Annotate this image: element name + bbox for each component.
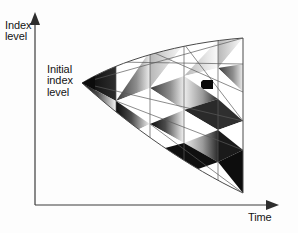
up-arrow-icon [30, 12, 40, 25]
initial-index-level-annotation: Initialindexlevel [47, 64, 73, 98]
lattice-cell [150, 143, 184, 174]
y-axis-label-line1: Index [5, 19, 31, 31]
figure-canvas [0, 0, 298, 233]
lattice-cone [70, 30, 255, 205]
initial-index-level-line1: Initial [47, 63, 72, 75]
initial-index-level-line2: index [47, 74, 73, 86]
initial-index-level-line3: level [47, 86, 69, 98]
x-axis-label: Time [248, 212, 272, 223]
node-marker-icon [201, 80, 213, 89]
lattice-cell [116, 124, 150, 152]
lattice-figure: Indexlevel Time Initialindexlevel [0, 0, 298, 233]
y-axis-label-line2: level [5, 30, 27, 42]
right-arrow-icon [266, 200, 279, 210]
y-axis-label: Indexlevel [5, 20, 31, 42]
